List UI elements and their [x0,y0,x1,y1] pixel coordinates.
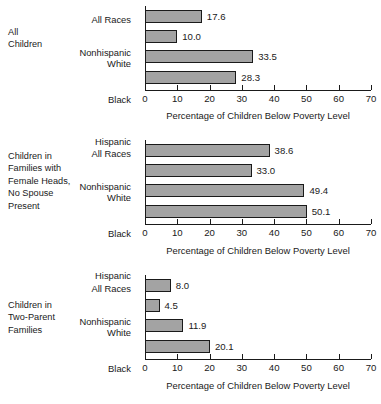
chart-panel-all-children: All Children 01020304050607017.6All Race… [0,0,381,130]
x-axis-tick-label: 0 [142,93,147,104]
category-label: All Races [11,149,131,160]
bar-value-label: 50.1 [312,205,331,218]
bar-value-label: 20.1 [215,340,234,353]
x-axis-tick [210,354,211,359]
x-axis-line [145,359,371,360]
x-axis-tick [371,85,372,90]
x-axis-tick [274,219,275,224]
x-axis-tick [306,219,307,224]
bar-value-label: 11.9 [188,319,206,332]
x-axis-tick [339,354,340,359]
bar [145,30,177,43]
bar-value-label: 33.0 [257,164,276,177]
x-axis-title: Percentage of Children Below Poverty Lev… [145,380,371,391]
chart-page: { "chart_data": [ { "type": "bar", "orie… [0,0,381,404]
x-axis-tick [371,219,372,224]
bar-row: 8.0All Races [145,279,371,292]
x-axis-tick-label: 50 [301,93,312,104]
bar [145,279,171,292]
x-axis-tick-label: 20 [204,362,215,373]
x-axis-tick-label: 70 [366,362,377,373]
bar-row: 49.4Black [145,184,371,197]
x-axis-tick-label: 40 [269,227,280,238]
x-axis-tick-label: 50 [301,227,312,238]
x-axis-tick-label: 50 [301,362,312,373]
x-axis-tick-label: 30 [237,362,248,373]
bar-row: 28.3Hispanic [145,71,371,84]
x-axis-tick [274,354,275,359]
x-axis-title: Percentage of Children Below Poverty Lev… [145,110,371,121]
bar [145,71,236,84]
x-axis-tick [274,85,275,90]
category-label: Black [11,95,131,106]
category-label: All Races [11,15,131,26]
bar-row: 10.0Nonhispanic White [145,30,371,43]
bar [145,340,210,353]
x-axis-line [145,90,371,91]
x-axis-tick-label: 70 [366,93,377,104]
x-axis-tick [242,219,243,224]
x-axis-tick-label: 30 [237,93,248,104]
category-label: Nonhispanic White [11,317,131,338]
x-axis-tick [242,354,243,359]
bar-value-label: 28.3 [241,71,260,84]
bar [145,10,202,23]
bar-row: 38.6All Races [145,144,371,157]
bar-row: 20.1Hispanic [145,340,371,353]
bar [145,184,304,197]
x-axis-tick [339,85,340,90]
x-axis-tick-label: 20 [204,227,215,238]
bar [145,144,270,157]
x-axis-tick-label: 0 [142,362,147,373]
x-axis-tick [177,219,178,224]
category-label: Black [11,229,131,240]
x-axis-tick [145,85,146,90]
x-axis-tick-label: 70 [366,227,377,238]
bar-row: 11.9Black [145,319,371,332]
category-label: All Races [11,284,131,295]
x-axis-tick [145,354,146,359]
bar-value-label: 8.0 [176,279,189,292]
x-axis-tick-label: 40 [269,93,280,104]
x-axis-tick [210,85,211,90]
x-axis-tick-label: 60 [333,362,344,373]
x-axis-tick [177,354,178,359]
chart-panel-female-head-families: Children in Families with Female Heads, … [0,134,381,265]
bar-value-label: 49.4 [309,184,328,197]
x-axis-tick-label: 10 [172,227,183,238]
x-axis-tick-label: 30 [237,227,248,238]
x-axis-line [145,224,371,225]
x-axis-tick [210,219,211,224]
bar-value-label: 17.6 [207,10,226,23]
bar-value-label: 4.5 [165,299,178,312]
plot-area: 01020304050607017.6All Races10.0Nonhispa… [145,6,371,90]
bar [145,319,183,332]
x-axis-tick-label: 0 [142,227,147,238]
bar [145,50,253,63]
bar-row: 33.0Nonhispanic White [145,164,371,177]
bar [145,205,307,218]
x-axis-tick [306,354,307,359]
plot-area: 0102030405060708.0All Races4.5Nonhispani… [145,275,371,359]
category-label: Nonhispanic White [11,182,131,203]
x-axis-tick-label: 60 [333,227,344,238]
x-axis-tick [177,85,178,90]
bar-value-label: 38.6 [275,144,294,157]
bar-value-label: 10.0 [182,30,201,43]
x-axis-tick-label: 20 [204,93,215,104]
x-axis-tick [306,85,307,90]
x-axis-title: Percentage of Children Below Poverty Lev… [145,245,371,256]
bar-row: 17.6All Races [145,10,371,23]
bar-row: 50.1Hispanic [145,205,371,218]
x-axis-tick-label: 10 [172,362,183,373]
chart-panel-two-parent-families: Children in Two-Parent Families 01020304… [0,269,381,400]
x-axis-tick-label: 40 [269,362,280,373]
category-label: Nonhispanic White [11,48,131,69]
x-axis-tick-label: 10 [172,93,183,104]
x-axis-tick [371,354,372,359]
bar-value-label: 33.5 [258,50,277,63]
bar-row: 4.5Nonhispanic White [145,299,371,312]
bar [145,164,252,177]
bar [145,299,160,312]
x-axis-tick [145,219,146,224]
